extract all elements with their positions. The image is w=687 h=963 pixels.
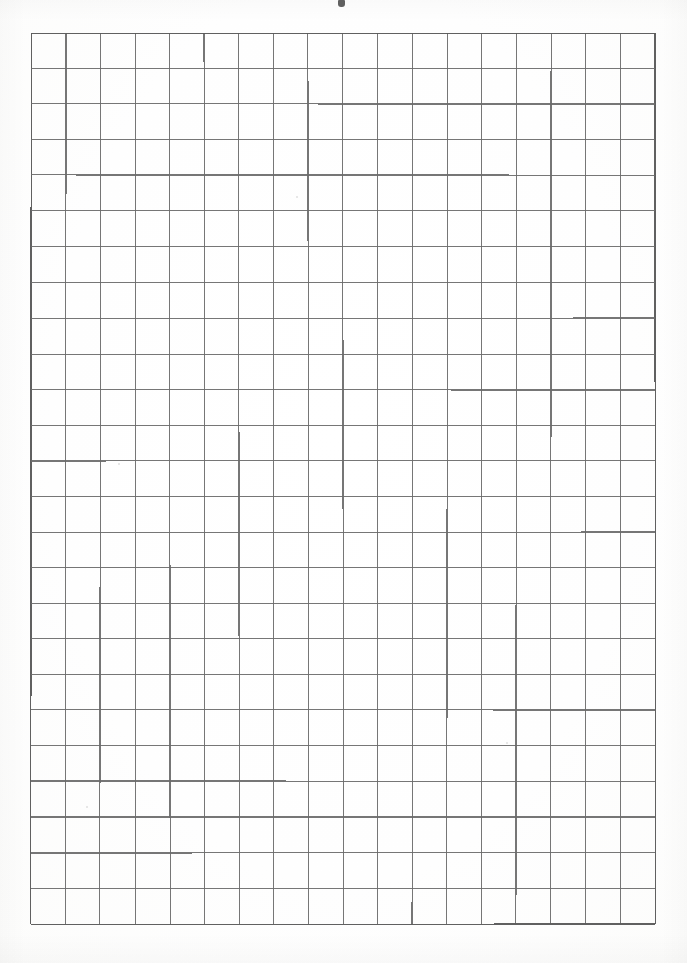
grid-line-horizontal bbox=[31, 710, 655, 711]
grid-border-line-horizontal bbox=[31, 924, 655, 925]
scan-speck bbox=[296, 196, 298, 198]
page-canvas bbox=[0, 0, 687, 963]
grid-border-line-vertical bbox=[31, 33, 32, 924]
grid-line-vertical bbox=[585, 33, 586, 924]
grid-line-vertical bbox=[412, 33, 413, 924]
grid-svg bbox=[31, 33, 655, 924]
grid-paper-block bbox=[31, 33, 655, 924]
grid-line-vertical bbox=[308, 33, 309, 924]
grid-line-vertical bbox=[239, 33, 240, 924]
grid-vertical-lines bbox=[31, 33, 656, 924]
scan-speck bbox=[506, 742, 508, 744]
grid-line-horizontal bbox=[31, 68, 655, 69]
grid-line-vertical bbox=[170, 33, 171, 924]
grid-line-vertical bbox=[447, 33, 448, 924]
grid-line-vertical bbox=[343, 33, 344, 924]
scan-speck bbox=[118, 463, 120, 465]
grid-line-vertical bbox=[100, 33, 101, 924]
grid-line-vertical bbox=[481, 33, 482, 924]
scan-speck bbox=[86, 806, 88, 808]
grid-line-horizontal bbox=[31, 532, 655, 533]
scan-edge-mark-icon bbox=[338, 0, 345, 7]
grid-line-vertical bbox=[65, 33, 66, 924]
grid-line-horizontal bbox=[31, 603, 655, 604]
grid-line-horizontal bbox=[31, 318, 655, 319]
